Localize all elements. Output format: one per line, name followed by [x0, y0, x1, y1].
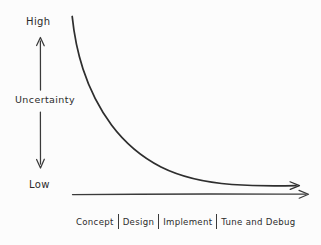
y-axis-high-label: High [26, 16, 51, 27]
phase-label-implement: Implement [159, 217, 216, 227]
x-axis [73, 190, 309, 198]
phase-label-row: Concept Design Implement Tune and Debug [72, 214, 317, 229]
y-axis-up-arrow [37, 38, 45, 91]
y-axis-down-arrow [37, 112, 45, 168]
phase-label-concept: Concept [72, 217, 118, 227]
phase-label-tune-and-debug: Tune and Debug [217, 217, 299, 227]
uncertainty-diagram: High Uncertainty Low Concept Design Impl… [0, 0, 321, 245]
phase-label-design: Design [119, 217, 158, 227]
diagram-canvas [0, 0, 321, 245]
y-axis-title: Uncertainty [15, 94, 75, 105]
y-axis-low-label: Low [29, 179, 50, 190]
uncertainty-curve [72, 17, 299, 190]
